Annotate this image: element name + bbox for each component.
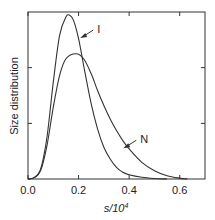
x-tick-label: 0.2 xyxy=(71,184,86,196)
x-axis-label: s/104 xyxy=(104,202,129,214)
x-tick-label: 0.0 xyxy=(20,184,35,196)
y-axis-label: Size distribution xyxy=(8,57,20,135)
curve-annotations: IN xyxy=(80,23,148,148)
arrow-head-icon xyxy=(80,33,87,38)
plot-frame xyxy=(28,12,205,179)
curves xyxy=(28,15,187,179)
annotation-label-I: I xyxy=(97,23,100,35)
axis-ticks xyxy=(28,12,205,179)
curve-N xyxy=(28,54,187,179)
x-tick-labels: 0.00.20.40.6 xyxy=(20,184,187,196)
arrow-head-icon xyxy=(123,143,130,148)
size-distribution-chart: 0.00.20.40.6 s/104 Size distribution IN xyxy=(0,0,215,220)
annotation-label-N: N xyxy=(140,133,148,145)
x-tick-label: 0.4 xyxy=(121,184,136,196)
curve-I xyxy=(28,15,167,179)
x-tick-label: 0.6 xyxy=(172,184,187,196)
